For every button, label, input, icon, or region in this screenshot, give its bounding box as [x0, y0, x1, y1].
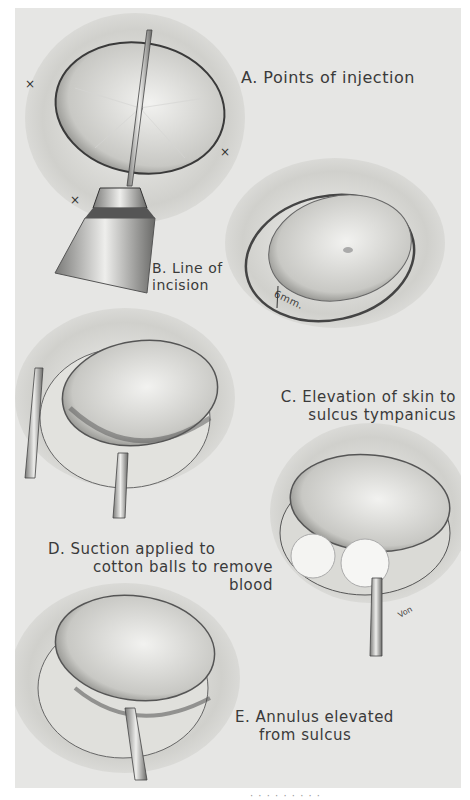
label-a: A. Points of injection [241, 68, 415, 87]
label-b-line1: B. Line of [152, 260, 223, 277]
figure-a-ear-canal [25, 13, 245, 293]
label-e-line2: from sulcus [235, 726, 394, 744]
label-b-line2: incision [152, 277, 223, 294]
label-c-line2: sulcus tympanicus [251, 406, 456, 424]
label-d-line1: D. Suction applied to [48, 540, 273, 558]
label-a-text: A. Points of injection [241, 68, 415, 87]
label-e: E. Annulus elevated from sulcus [235, 708, 394, 744]
label-c: C. Elevation of skin to sulcus tympanicu… [251, 388, 456, 424]
figure-b-incision [225, 158, 445, 336]
cutoff-caption: · · · · · · · · · [250, 790, 321, 800]
injection-mark: × [25, 77, 35, 91]
injection-mark: × [70, 193, 80, 207]
figure-e-annulus [15, 583, 240, 780]
figure-d-suction [270, 423, 461, 656]
label-b: B. Line of incision [152, 260, 223, 294]
figure-c-elevation [15, 308, 235, 518]
label-e-line1: E. Annulus elevated [235, 708, 394, 726]
label-d-line3: blood [48, 576, 273, 594]
label-d: D. Suction applied to cotton balls to re… [48, 540, 273, 594]
illustration-panel: × × × Von [15, 8, 461, 788]
injection-mark: × [220, 145, 230, 159]
artist-signature: Von [397, 605, 414, 620]
label-d-line2: cotton balls to remove [48, 558, 273, 576]
label-c-line1: C. Elevation of skin to [251, 388, 456, 406]
